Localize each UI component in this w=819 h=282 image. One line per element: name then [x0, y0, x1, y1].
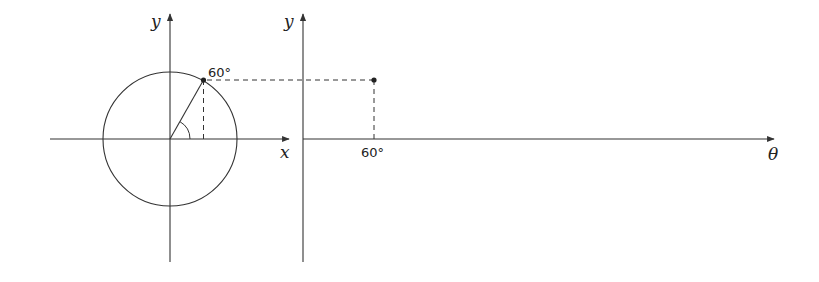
- sine-graph-panel: 60° y θ: [283, 11, 778, 262]
- radius-line: [170, 80, 204, 139]
- theta-axis-label: θ: [768, 144, 778, 164]
- left-y-axis-label: y: [150, 11, 161, 31]
- diagram-svg: 60° y x 60° y θ: [0, 0, 819, 282]
- left-x-axis-label: x: [280, 142, 290, 162]
- unit-circle-panel: 60° y x: [50, 11, 290, 262]
- angle-arc: [180, 122, 190, 139]
- theta-tick-label: 60°: [361, 145, 384, 160]
- circle-point: [201, 77, 206, 82]
- point-angle-label: 60°: [208, 65, 231, 80]
- graph-point: [371, 77, 376, 82]
- right-y-axis-label: y: [283, 11, 294, 31]
- diagram-canvas: 60° y x 60° y θ: [0, 0, 819, 282]
